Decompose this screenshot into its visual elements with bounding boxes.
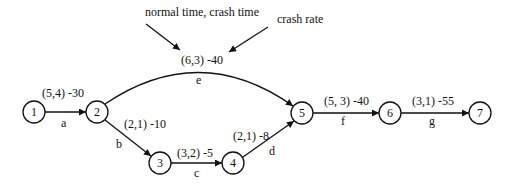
- annotation-arrow-right: [229, 27, 268, 52]
- node-3: 3: [149, 152, 171, 174]
- node-1: 1: [23, 101, 45, 123]
- node-3-label: 3: [157, 156, 163, 170]
- node-7-label: 7: [477, 106, 483, 120]
- edge-d-times: (2,1) -8: [233, 129, 269, 143]
- edge-c-times: (3,2) -5: [177, 146, 213, 160]
- edge-e-times: (6,3) -40: [181, 53, 223, 67]
- edge-f-name: f: [341, 114, 345, 128]
- node-6: 6: [379, 102, 401, 124]
- edge-b-name: b: [116, 137, 122, 151]
- node-1-label: 1: [31, 105, 37, 119]
- node-6-label: 6: [387, 106, 393, 120]
- edge-a-times: (5,4) -30: [42, 86, 84, 100]
- annotation-crash-rate: crash rate: [277, 12, 323, 26]
- node-2: 2: [86, 101, 108, 123]
- edge-b-times: (2,1) -10: [124, 117, 166, 131]
- edge-c-name: c: [194, 166, 199, 180]
- node-4-label: 4: [230, 156, 236, 170]
- project-network-diagram: normal time, crash time crash rate (5,4)…: [0, 0, 515, 187]
- edge-g-times: (3,1) -55: [412, 94, 454, 108]
- edge-a-name: a: [61, 116, 67, 130]
- node-4: 4: [222, 152, 244, 174]
- node-2-label: 2: [94, 105, 100, 119]
- edge-g-name: g: [429, 114, 435, 128]
- annotation-arrow-left: [146, 24, 180, 50]
- edge-d-name: d: [269, 144, 275, 158]
- edge-e-name: e: [196, 73, 201, 87]
- annotation-normal-crash-time: normal time, crash time: [145, 5, 259, 19]
- edge-f-times: (5, 3) -40: [324, 94, 369, 108]
- node-5-label: 5: [299, 106, 305, 120]
- node-7: 7: [469, 102, 491, 124]
- node-5: 5: [291, 102, 313, 124]
